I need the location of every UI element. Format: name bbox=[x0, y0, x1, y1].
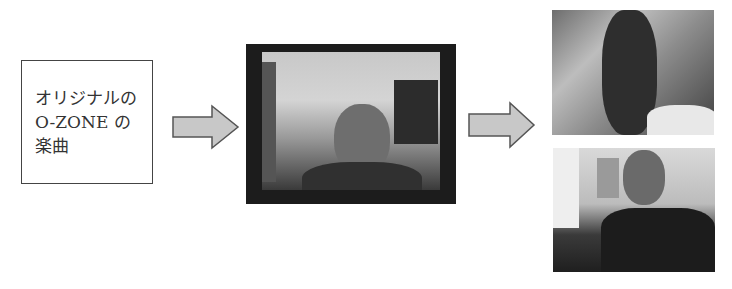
body-shape bbox=[601, 208, 715, 272]
output-webcam-image-1 bbox=[552, 10, 714, 135]
center-webcam-image bbox=[246, 44, 456, 204]
source-line-2: O-ZONE の bbox=[35, 110, 152, 134]
shoulders-shape bbox=[302, 162, 422, 190]
arrow-right-icon bbox=[468, 101, 536, 149]
source-song-box: オリジナルの O-ZONE の 楽曲 bbox=[21, 60, 153, 184]
poster-shape bbox=[597, 158, 619, 198]
arrow-right-icon bbox=[172, 104, 240, 150]
wall-edge bbox=[262, 62, 276, 182]
window-shape bbox=[553, 148, 579, 228]
face-shape bbox=[623, 150, 665, 205]
door-shape bbox=[394, 80, 438, 144]
shirt-shape bbox=[647, 105, 714, 135]
center-photo bbox=[262, 52, 440, 190]
source-line-1: オリジナルの bbox=[35, 86, 152, 110]
source-line-3: 楽曲 bbox=[35, 134, 152, 158]
output-webcam-image-2 bbox=[553, 148, 715, 272]
